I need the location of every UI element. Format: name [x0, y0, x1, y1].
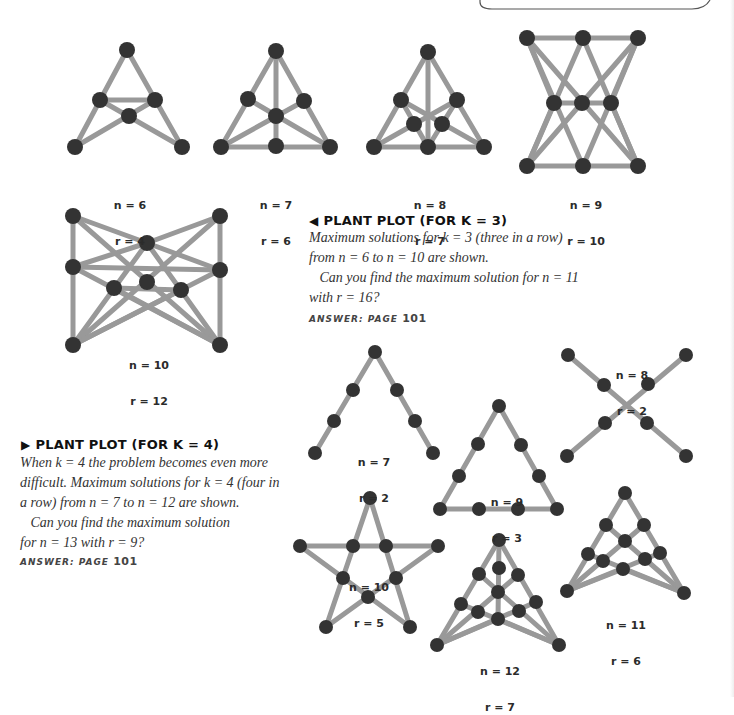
n-label: n = 7	[256, 200, 296, 212]
caption-k4-n12: n = 12 r = 7	[477, 642, 523, 715]
figure-k3-n8	[366, 44, 492, 155]
caption-k4-n7: n = 7 r = 2	[352, 433, 396, 517]
caption-k4-n10: n = 10 r = 5	[346, 558, 392, 642]
r-label: r = 4	[110, 236, 150, 248]
answer-page: 101	[113, 555, 137, 568]
body-line: for n = 13 with r = 9?	[20, 533, 280, 553]
n-label: n = 11	[603, 620, 649, 632]
figure-k3-n6	[67, 42, 190, 155]
n-label: n = 9	[564, 200, 608, 212]
body-line: Can you find the maximum solution	[20, 513, 280, 533]
body-line: difficult. Maximum solutions for k = 4 (…	[20, 473, 280, 493]
figure-k3-n9	[519, 30, 646, 174]
r-label: r = 6	[603, 656, 649, 668]
figure-k3-n7	[213, 43, 338, 155]
body-line: Maximum solutions for k = 3 (three in a …	[309, 228, 579, 248]
n-label: n = 10	[126, 360, 172, 372]
n-label: n = 12	[477, 666, 523, 678]
answer-label: ANSWER: PAGE	[20, 557, 113, 567]
r-label: r = 2	[352, 493, 396, 505]
body-line: When k = 4 the problem becomes even more	[20, 453, 280, 473]
n-label: n = 8	[610, 370, 654, 382]
figure-k4-n11	[560, 486, 691, 600]
body-line: with r = 16?	[309, 288, 579, 308]
caption-k4-n9: n = 9 r = 3	[485, 473, 529, 557]
arrow-right-icon: ▶	[21, 438, 30, 452]
r-label: r = 3	[485, 533, 529, 545]
arrow-left-icon: ◀	[309, 214, 318, 228]
page-edge-shadow	[730, 0, 734, 697]
answer-ref-k4: ANSWER: PAGE 101	[20, 555, 138, 568]
heading-k3: ◀PLANT PLOT (FOR K = 3)	[309, 213, 507, 228]
r-label: r = 12	[126, 396, 172, 408]
body-line: from n = 6 to n = 10 are shown.	[309, 248, 579, 268]
caption-k4-n11: n = 11 r = 6	[603, 596, 649, 680]
n-label: n = 9	[485, 497, 529, 509]
body-k4: When k = 4 the problem becomes even more…	[20, 453, 280, 553]
caption-k3-n10: n = 10 r = 12	[126, 336, 172, 420]
body-line: a row) from n = 7 to n = 12 are shown.	[20, 493, 280, 513]
heading-k4: ▶PLANT PLOT (FOR K = 4)	[21, 437, 219, 452]
heading-text: PLANT PLOT (FOR K = 4)	[35, 437, 219, 452]
callout-box-border	[480, 0, 710, 9]
caption-k4-n8: n = 8 r = 2	[610, 346, 654, 430]
n-label: n = 10	[346, 582, 392, 594]
r-label: r = 2	[610, 406, 654, 418]
n-label: n = 6	[110, 200, 150, 212]
n-label: n = 8	[410, 200, 450, 212]
body-k3: Maximum solutions for k = 3 (three in a …	[309, 228, 579, 308]
caption-k3-n6: n = 6 r = 4	[110, 176, 150, 260]
heading-text: PLANT PLOT (FOR K = 3)	[323, 213, 507, 228]
answer-label: ANSWER: PAGE	[309, 314, 402, 324]
r-label: r = 7	[477, 702, 523, 714]
r-label: r = 5	[346, 618, 392, 630]
caption-k3-n7: n = 7 r = 6	[256, 176, 296, 260]
answer-page: 101	[402, 312, 426, 325]
answer-ref-k3: ANSWER: PAGE 101	[309, 312, 427, 325]
n-label: n = 7	[352, 457, 396, 469]
body-line: Can you find the maximum solution for n …	[309, 268, 579, 288]
r-label: r = 6	[256, 236, 296, 248]
